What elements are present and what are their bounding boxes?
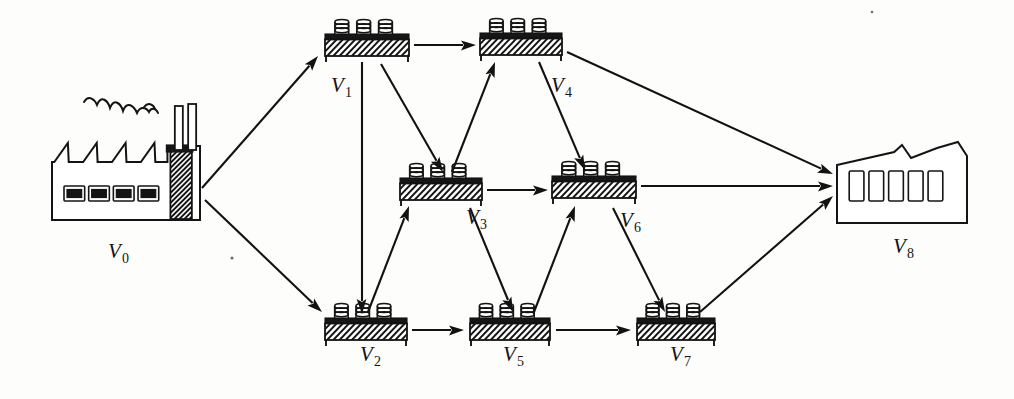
- arrow-icon: [461, 41, 476, 51]
- edge-v3-to-v6: [487, 186, 548, 196]
- edge-shaft: [205, 200, 313, 303]
- factory-window-glass: [116, 190, 131, 198]
- edge-v2-to-v5: [412, 326, 464, 336]
- hatch: [309, 324, 325, 341]
- edge-v0-to-v2: [205, 200, 322, 312]
- factory-window-glass: [67, 190, 82, 198]
- node-v5[interactable]: [454, 303, 563, 346]
- coin-icon: [377, 303, 391, 308]
- node-label-letter: V: [893, 234, 908, 258]
- diagram-canvas: V0V1V2V3V4V5V6V7V8: [0, 0, 1014, 399]
- coin-icon: [410, 163, 424, 168]
- node-v8[interactable]: [837, 142, 967, 223]
- node-label-letter: V: [108, 239, 123, 263]
- arrow-icon: [533, 186, 548, 196]
- coin-icon: [562, 161, 576, 166]
- node-label-subscript: 6: [634, 220, 641, 235]
- warehouse-window: [889, 171, 904, 201]
- hatch: [483, 184, 499, 201]
- coin-icon: [379, 19, 393, 24]
- node-label-v8: V8: [893, 234, 914, 261]
- warehouse-window: [849, 171, 864, 201]
- node-label-letter: V: [551, 73, 566, 97]
- network-diagram: V0V1V2V3V4V5V6V7V8: [0, 0, 1014, 399]
- arrow-icon: [616, 326, 631, 336]
- node-label-subscript: 7: [684, 354, 691, 369]
- hatch: [408, 40, 424, 57]
- ink-speck: [230, 256, 233, 259]
- node-label-subscript: 1: [345, 85, 352, 100]
- node-label-letter: V: [503, 342, 518, 366]
- coin-icon: [511, 18, 525, 23]
- edge-v1-to-v2: [357, 62, 367, 314]
- coin-icon: [666, 303, 679, 308]
- edge-shaft: [202, 66, 309, 188]
- edge-shaft: [381, 64, 437, 161]
- node-label-v6: V6: [620, 208, 641, 235]
- coin-icon: [357, 19, 371, 24]
- edges-layer: [202, 41, 833, 336]
- arrow-icon: [449, 326, 464, 336]
- node-label-letter: V: [670, 342, 685, 366]
- edge-shaft: [534, 218, 570, 312]
- node-label-v2: V2: [360, 342, 381, 369]
- coin-icon: [687, 303, 700, 308]
- nodes-layer: [52, 18, 967, 346]
- coin-icon: [335, 19, 349, 24]
- node-label-subscript: 5: [517, 354, 524, 369]
- warehouse-window: [928, 171, 943, 201]
- edge-v5-to-v7: [556, 326, 631, 336]
- coin-icon: [479, 303, 492, 308]
- factory-window-glass: [141, 190, 156, 198]
- arrow-icon: [818, 182, 833, 192]
- node-label-v7: V7: [670, 342, 691, 369]
- coin-icon: [335, 303, 349, 308]
- edge-shaft: [452, 74, 490, 172]
- smokestack-icon: [188, 104, 196, 150]
- node-v0[interactable]: [52, 98, 260, 220]
- edge-shaft: [700, 205, 823, 312]
- node-v1[interactable]: [309, 19, 424, 62]
- edge-v5-to-v6: [534, 206, 575, 312]
- node-v7[interactable]: [621, 303, 730, 346]
- warehouse-window: [908, 171, 923, 201]
- edge-v3-to-v4: [452, 62, 495, 172]
- coin-icon: [606, 161, 620, 166]
- node-label-letter: V: [360, 342, 375, 366]
- edge-v4-to-v8: [567, 52, 833, 174]
- node-label-v3: V3: [466, 205, 487, 232]
- smokestack-icon: [175, 106, 183, 150]
- node-label-letter: V: [331, 73, 346, 97]
- edge-v7-to-v8: [700, 196, 833, 312]
- edge-v2-to-v3: [368, 206, 409, 312]
- hatch: [309, 40, 325, 57]
- coin-icon: [521, 303, 534, 308]
- node-v4[interactable]: [464, 18, 579, 61]
- node-v6[interactable]: [536, 161, 651, 204]
- edge-shaft: [567, 52, 821, 169]
- warehouse-window: [869, 171, 884, 201]
- node-label-subscript: 4: [565, 85, 572, 100]
- coin-icon: [490, 18, 504, 23]
- hatch: [384, 184, 400, 201]
- coin-icon: [584, 161, 598, 166]
- ink-speck: [871, 11, 874, 14]
- node-v2[interactable]: [309, 303, 424, 346]
- edge-v1-to-v4: [414, 41, 476, 51]
- node-label-v4: V4: [551, 73, 572, 100]
- edge-v1-to-v3: [381, 64, 443, 172]
- node-label-v0: V0: [108, 239, 129, 266]
- node-label-v5: V5: [503, 342, 524, 369]
- node-label-v1: V1: [331, 73, 352, 100]
- node-label-subscript: 2: [374, 354, 381, 369]
- hatch: [635, 182, 651, 199]
- node-label-subscript: 0: [122, 251, 129, 266]
- coin-icon: [532, 18, 546, 23]
- node-label-letter: V: [620, 208, 635, 232]
- hatch: [408, 324, 424, 341]
- node-label-subscript: 8: [907, 246, 914, 261]
- edge-v6-to-v8: [641, 182, 833, 192]
- factory-window-glass: [92, 190, 107, 198]
- edge-v0-to-v1: [202, 56, 318, 188]
- node-label-letter: V: [466, 205, 481, 229]
